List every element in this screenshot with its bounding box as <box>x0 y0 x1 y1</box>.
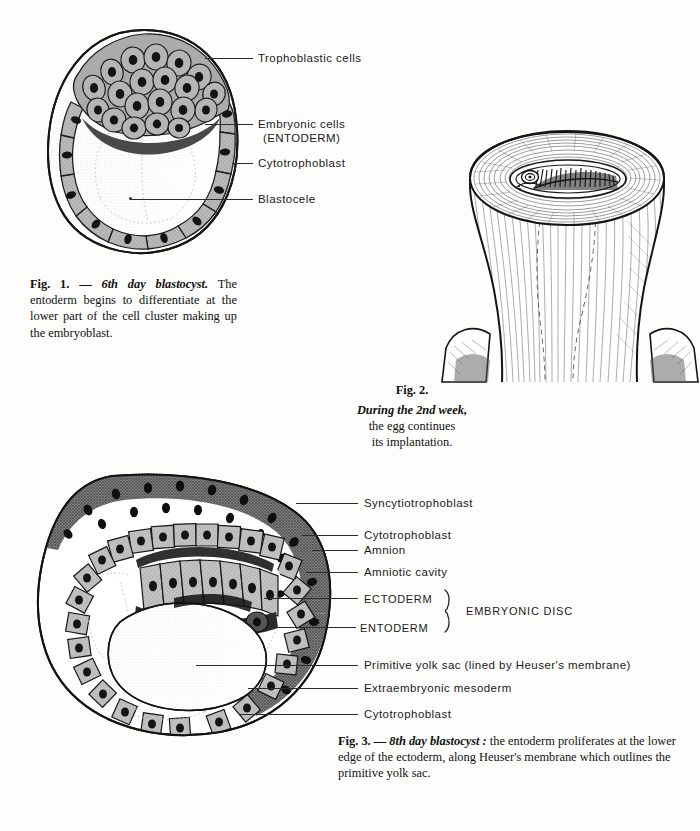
label-embryonic-cells: Embryonic cells (ENTODERM) <box>258 117 345 145</box>
leader-extraembryonic-mesoderm <box>248 688 358 689</box>
figure-1-caption-title: 6th day blastocyst. <box>101 277 208 291</box>
figure-3-illustration <box>24 472 344 740</box>
figure-2-caption-line3: its implantation. <box>332 434 492 450</box>
figure-2-caption-number: Fig. 2. <box>332 382 492 398</box>
leader-blastocele <box>131 199 253 200</box>
figure-2-illustration <box>440 120 700 385</box>
figure-3-caption-title: 8th day blastocyst : <box>389 734 486 748</box>
leader-amniotic-cavity <box>306 572 358 573</box>
label-embryonic-cells-line2: (ENTODERM) <box>258 131 345 145</box>
figure-1-caption: Fig. 1. — 6th day blastocyst. The entode… <box>30 276 237 341</box>
label-entoderm: ENTODERM <box>360 621 428 635</box>
leader-cytotrophoblast-lower <box>240 714 358 715</box>
label-ectoderm: ECTODERM <box>364 592 432 606</box>
blastocele-pointer-dot <box>129 197 132 200</box>
leader-cytotrophoblast-upper <box>302 535 358 536</box>
label-embryonic-cells-line1: Embryonic cells <box>258 118 345 130</box>
leader-ectoderm <box>264 598 358 599</box>
leader-trophoblastic-cells <box>205 58 253 59</box>
leader-cytotrophoblast <box>232 163 253 164</box>
label-embryonic-disc: EMBRYONIC DISC <box>466 604 573 618</box>
label-cytotrophoblast-lower: Cytotrophoblast <box>364 707 451 721</box>
figure-2-caption-line2: the egg continues <box>332 418 492 434</box>
label-primitive-yolk-sac: Primitive yolk sac (lined by Heuser's me… <box>364 658 631 672</box>
label-cytotrophoblast-upper: Cytotrophoblast <box>364 528 451 542</box>
leader-embryonic-cells <box>205 124 253 125</box>
label-syncytiotrophoblast: Syncytiotrophoblast <box>364 496 473 510</box>
leader-amnion <box>312 550 358 551</box>
leader-primitive-yolk-sac <box>196 665 358 666</box>
label-cytotrophoblast-fig1: Cytotrophoblast <box>258 156 345 170</box>
figure-2-caption-line1: During the 2nd week, <box>332 402 492 418</box>
leader-entoderm <box>276 627 356 628</box>
label-blastocele: Blastocele <box>258 192 316 206</box>
embryonic-disc-brace <box>441 588 457 634</box>
figure-1-caption-number: Fig. 1. — <box>30 277 101 291</box>
label-amnion: Amnion <box>364 543 406 557</box>
leader-syncytiotrophoblast <box>296 503 358 504</box>
label-trophoblastic-cells: Trophoblastic cells <box>258 51 361 65</box>
label-amniotic-cavity: Amniotic cavity <box>364 565 447 579</box>
figure-2-caption: Fig. 2. During the 2nd week, the egg con… <box>332 382 492 450</box>
figure-3-caption-number: Fig. 3. — <box>338 734 389 748</box>
figure-3-caption: Fig. 3. — 8th day blastocyst : the entod… <box>338 733 694 782</box>
label-extraembryonic-mesoderm: Extraembryonic mesoderm <box>364 681 512 695</box>
page-canvas: Trophoblastic cells Embryonic cells (ENT… <box>0 0 700 831</box>
